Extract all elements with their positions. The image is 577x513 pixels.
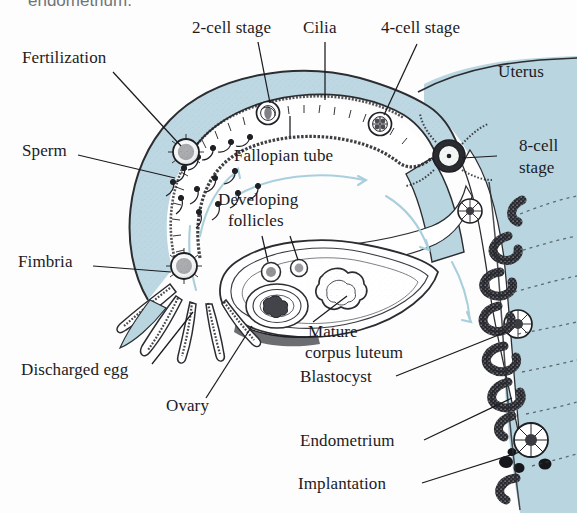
two-cell-stage-embryo (257, 102, 280, 125)
label-mature-corpus-luteum-line1: Mature (308, 322, 358, 341)
label-endometrium: Endometrium (300, 431, 395, 450)
label-sperm: Sperm (22, 141, 67, 160)
label-developing-follicles-line1: Developing (218, 190, 298, 209)
label-fertilization: Fertilization (22, 48, 106, 67)
anatomy-illustration (0, 0, 577, 513)
label-4-cell-stage: 4-cell stage (381, 18, 460, 37)
label-uterus: Uterus (498, 62, 544, 81)
label-ovary: Ovary (166, 396, 209, 415)
mature-corpus-luteum (316, 268, 367, 309)
label-implantation: Implantation (298, 474, 386, 493)
label-8-cell-stage-line2: stage (519, 158, 554, 177)
label-fimbria: Fimbria (18, 252, 73, 271)
mature-follicle (246, 284, 308, 328)
blastocyst-free-upper (458, 199, 482, 223)
label-mature-corpus-luteum-line2: corpus luteum (305, 343, 403, 362)
four-cell-stage-embryo (369, 113, 392, 136)
label-blastocyst: Blastocyst (300, 367, 372, 386)
eight-cell-stage-morula (433, 140, 465, 172)
label-fallopian-tube: Fallopian tube (234, 146, 333, 165)
cropped-top-caption: endometrium. (28, 0, 148, 11)
diagram-page: endometrium. Fertilization Sperm Fimbria… (0, 0, 577, 513)
leader-fertilization (113, 72, 181, 146)
label-2-cell-stage: 2-cell stage (192, 18, 271, 37)
label-8-cell-stage-line1: 8-cell (519, 136, 558, 155)
label-cilia: Cilia (303, 18, 337, 37)
label-discharged-egg: Discharged egg (21, 360, 128, 379)
label-developing-follicles-line2: follicles (228, 211, 284, 230)
